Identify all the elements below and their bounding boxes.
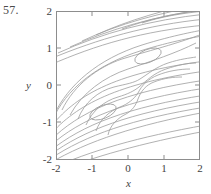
y-tick-label--1: -1 (36, 116, 52, 128)
y-tick-label-0: 0 (40, 79, 52, 91)
x-tick-label-1: 1 (161, 162, 167, 174)
y-axis-label: y (26, 79, 31, 91)
y-tick-label--2: -2 (36, 153, 52, 165)
x-tick-label-0: 0 (125, 162, 131, 174)
x-tick-label--2: -2 (51, 162, 60, 174)
y-tick-label-2: 2 (40, 5, 52, 17)
contour-plot-figure: 57. (0, 0, 211, 194)
y-tick-label-1: 1 (40, 42, 52, 54)
x-tick-label-2: 2 (197, 162, 203, 174)
problem-number-label: 57. (3, 3, 19, 18)
x-tick-label--1: -1 (87, 162, 96, 174)
contour-lines (56, 11, 200, 160)
plot-area (56, 11, 200, 160)
x-axis-label: x (126, 177, 131, 189)
contour-line-group (56, 11, 200, 160)
